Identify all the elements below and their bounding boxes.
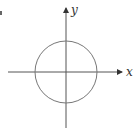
- x-axis-label: x: [126, 65, 133, 79]
- y-axis-label: y: [70, 3, 78, 17]
- coordinate-diagram: x y: [0, 0, 135, 134]
